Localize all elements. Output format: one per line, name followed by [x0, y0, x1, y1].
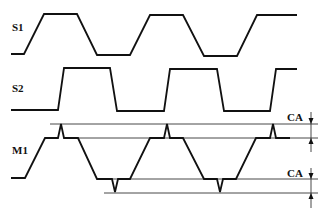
waveform-s1 — [11, 14, 297, 56]
dimension-ca-upper — [309, 112, 314, 152]
dimension-ca-lower — [309, 168, 314, 208]
waveform-m1 — [11, 124, 290, 192]
arrow-down-icon — [309, 118, 314, 124]
waveforms — [11, 14, 297, 192]
arrow-up-icon — [309, 138, 314, 144]
waveform-s2 — [11, 68, 297, 111]
waveform-diagram — [0, 0, 328, 216]
reference-lines — [50, 124, 318, 193]
dimension-label-ca-lower: CA — [287, 167, 303, 179]
signal-label-m1: M1 — [12, 144, 28, 156]
signal-label-s2: S2 — [12, 82, 24, 94]
dimension-label-ca-upper: CA — [287, 111, 303, 123]
dimension-markers — [309, 112, 314, 208]
arrow-down-icon — [309, 173, 314, 179]
arrow-up-icon — [309, 193, 314, 199]
signal-label-s1: S1 — [12, 21, 24, 33]
